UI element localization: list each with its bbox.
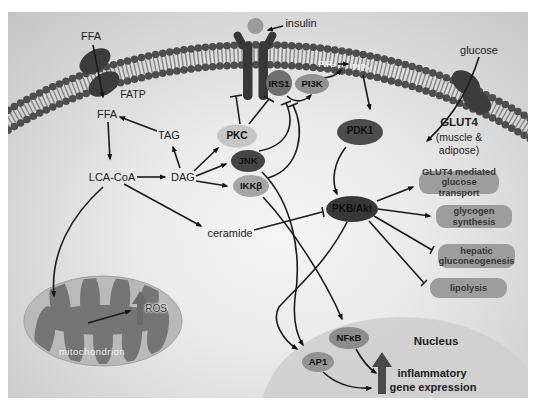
jnk-label: JNK	[238, 156, 257, 166]
pip2-label: PIP₂	[318, 60, 335, 69]
ros-label: ROS	[145, 304, 167, 314]
inhibit-pkc-to-receptor	[230, 95, 242, 124]
outcome-hepatic-gluconeogenesis-label: hepatic gluconeogenesis	[439, 246, 515, 266]
arrow-pkb-to-glycogen	[378, 209, 430, 216]
arrow-dag-to-ikkb	[196, 181, 227, 186]
arrow-jnk-to-ap1	[262, 172, 303, 345]
inhibit-jnk-to-irs1	[259, 101, 291, 151]
ffa-cytosol-label: FFA	[97, 109, 117, 120]
ap1-label: AP1	[309, 357, 327, 367]
pip3-label: PIP₃	[352, 63, 370, 72]
pi3k-label: PI3K	[301, 79, 322, 89]
dag-label: DAG	[171, 172, 195, 183]
arrow-pip3-to-pdk1	[363, 75, 370, 109]
pdk1-label: PDK1	[347, 126, 374, 136]
arrow-pdk1-to-pkb	[334, 147, 346, 194]
figure: FFA FATP FFA TAG LCA-CoA DAG ceramide in…	[0, 0, 536, 409]
ikkb-label: IKKβ	[240, 181, 262, 191]
inflammatory-label: inflammatory	[397, 368, 466, 379]
fatp-label: FATP	[120, 89, 145, 100]
glucose-label: glucose	[460, 45, 498, 56]
inhibit-pkb-to-gluconeogenesis	[374, 216, 434, 254]
glut4-sub2-label: adipose)	[439, 145, 479, 156]
inhibit-ikkb-to-irs1	[268, 103, 299, 178]
ceramide-label: ceramide	[207, 228, 252, 239]
outcome-hepatic-gluconeogenesis: hepatic gluconeogenesis	[438, 244, 515, 268]
arrow-irs1-to-pi3k	[287, 95, 311, 101]
outcome-glucose-transport-label: GLUT4 mediated glucose transport	[421, 167, 497, 197]
outcome-lipolysis: lipolysis	[430, 278, 507, 298]
nucleus-label: Nucleus	[414, 336, 459, 348]
mitochondrion-label: mitochondrion	[59, 347, 125, 357]
arrow-dag-to-tag	[173, 147, 180, 168]
arrow-dag-to-pkc	[194, 148, 218, 171]
outcome-glycogen-synthesis: glycogen synthesis	[436, 205, 512, 228]
pkb-akt-label: PKB/Akt	[332, 204, 372, 214]
outcome-lipolysis-label: lipolysis	[450, 283, 487, 293]
insulin-label: insulin	[285, 18, 316, 29]
arrow-insulin-to-receptor	[268, 26, 283, 30]
arrow-lcacoa-to-ceramide	[124, 184, 201, 226]
glut4-sub1-label: (muscle &	[436, 132, 483, 143]
arrow-pkb-to-glucose-transport	[377, 187, 413, 201]
insulin-molecule	[248, 18, 264, 34]
outcome-glycogen-synthesis-label: glycogen synthesis	[438, 206, 510, 226]
tag-label: TAG	[158, 130, 180, 141]
outcome-glucose-transport: GLUT4 mediated glucose transport	[419, 171, 499, 194]
arrow-tag-to-ffa	[120, 117, 157, 131]
glut4-label: GLUT4	[440, 117, 478, 129]
pkc-label: PKC	[226, 131, 247, 141]
ffa-extracellular-label: FFA	[81, 31, 101, 42]
gene-expression-label: gene expression	[390, 382, 477, 393]
arrow-ffa-to-lcacoa	[108, 122, 110, 159]
irs1-label: IRS1	[268, 79, 289, 89]
nfkb-label: NFκB	[337, 333, 362, 343]
lca-coa-label: LCA-CoA	[89, 172, 135, 183]
inhibit-pkc-to-irs1	[249, 96, 274, 124]
